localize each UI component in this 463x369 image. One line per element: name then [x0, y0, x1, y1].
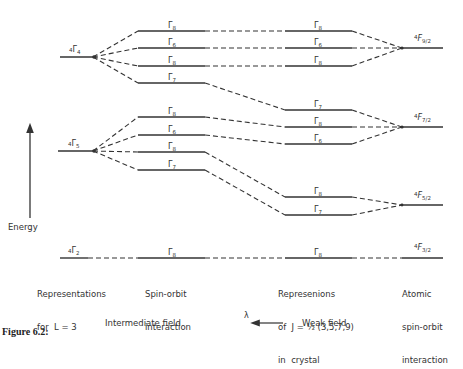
svg-text:4F7/2: 4F7/2 [414, 113, 431, 123]
caption-col2: Spin-orbit interaction [145, 267, 191, 344]
caption-col4-line3: interaction [402, 355, 448, 366]
figure-caption: Figure 6.2: [2, 326, 48, 337]
label-gamma5: 4Γ5 [68, 139, 80, 149]
caption-col3-line3: in crystal [278, 355, 354, 366]
crystal-j-levels: Γ8 Γ6 Γ8 Γ7 Γ8 Γ6 Γ8 Γ7 Γ8 [285, 21, 352, 258]
label-gamma2: 4Γ2 [68, 246, 79, 256]
svg-text:Γ8: Γ8 [168, 56, 176, 66]
svg-text:Γ8: Γ8 [168, 21, 176, 31]
weak-field-label: Weak field [302, 318, 346, 329]
svg-text:Γ6: Γ6 [314, 134, 322, 144]
svg-text:Γ8: Γ8 [314, 187, 322, 197]
atomic-levels: 4F9/2 4F7/2 4F5/2 4F3/2 [402, 34, 443, 258]
lambda-symbol: λ [244, 311, 249, 320]
svg-text:4F5/2: 4F5/2 [414, 191, 431, 201]
svg-text:Γ7: Γ7 [314, 100, 322, 110]
caption-col4-line2: spin-orbit [402, 322, 448, 333]
svg-text:Γ6: Γ6 [314, 38, 322, 48]
caption-col3-line1: Represenions [278, 289, 354, 300]
label-gamma4: 4Γ4 [69, 45, 81, 55]
spin-orbit-levels: Γ8 Γ6 Γ8 Γ7 Γ8 Γ6 Γ8 Γ7 Γ8 [138, 21, 205, 258]
energy-label: Energy [8, 222, 38, 233]
svg-text:4F9/2: 4F9/2 [414, 34, 431, 44]
caption-col1-line1: Representations [37, 289, 106, 300]
svg-text:Γ8: Γ8 [314, 21, 322, 31]
svg-text:Γ8: Γ8 [314, 117, 322, 127]
svg-text:Γ8: Γ8 [168, 107, 176, 117]
svg-text:Γ7: Γ7 [168, 73, 176, 83]
svg-text:Γ8: Γ8 [168, 142, 176, 152]
svg-text:4F3/2: 4F3/2 [414, 243, 431, 253]
svg-text:Γ7: Γ7 [168, 160, 176, 170]
svg-text:Γ7: Γ7 [314, 205, 322, 215]
caption-col2-line1: Spin-orbit [145, 289, 191, 300]
intermediate-field-label: Intermediate field [105, 318, 181, 329]
svg-text:Γ6: Γ6 [168, 125, 176, 135]
svg-text:Γ8: Γ8 [314, 56, 322, 66]
svg-text:Γ6: Γ6 [168, 38, 176, 48]
caption-col4-line1: Atomic [402, 289, 448, 300]
caption-col4: Atomic spin-orbit interaction [402, 267, 448, 369]
svg-text:Γ8: Γ8 [168, 248, 176, 258]
svg-text:Γ8: Γ8 [314, 248, 322, 258]
